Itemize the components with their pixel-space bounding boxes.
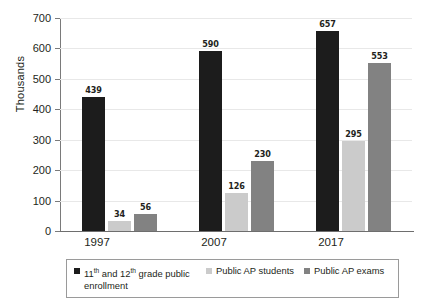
bar-value-2017-ap-exams: 553	[360, 51, 400, 61]
legend-swatch-icon-ap-students	[206, 268, 212, 274]
y-axis-title: Thousands	[14, 24, 26, 144]
y-tick-label: 100	[33, 195, 51, 207]
tick-mark	[55, 231, 60, 232]
bar-2017-ap-exams[interactable]	[368, 63, 391, 231]
tick-mark	[55, 109, 60, 110]
y-tick-label: 200	[33, 164, 51, 176]
x-tick-label-2017: 2017	[286, 236, 376, 248]
legend-item-ap-students[interactable]: Public AP students	[206, 265, 294, 277]
tick-mark	[55, 201, 60, 202]
y-tick-label: 700	[33, 12, 51, 24]
tick-mark	[55, 48, 60, 49]
tick-mark	[55, 79, 60, 80]
y-tick-label: 500	[33, 73, 51, 85]
bar-chart: Thousands 700 600 500 400 300	[0, 0, 424, 304]
bar-1997-ap-exams[interactable]	[134, 214, 157, 231]
bar-2007-ap-exams[interactable]	[251, 161, 274, 231]
tick-mark	[55, 140, 60, 141]
legend-label-ap-students: Public AP students	[216, 265, 294, 277]
legend-item-ap-exams[interactable]: Public AP exams	[304, 265, 384, 277]
plot-area: 700 600 500 400 300 200	[60, 18, 412, 231]
x-axis-line	[60, 231, 414, 232]
x-tick-label-2007: 2007	[169, 236, 259, 248]
bar-value-1997-ap-exams: 56	[126, 202, 166, 212]
y-tick-label: 300	[33, 134, 51, 146]
legend-label-enrollment: 11th and 12th grade public enrollment	[84, 265, 196, 292]
y-tick-label: 600	[33, 42, 51, 54]
tick-mark	[55, 18, 60, 19]
bar-value-2007-enrollment: 590	[191, 39, 231, 49]
bar-group-2007: 590 126 230	[189, 18, 289, 231]
y-tick-label: 400	[33, 103, 51, 115]
bar-group-1997: 439 34 56	[72, 18, 172, 231]
legend-swatch-icon-enrollment	[74, 268, 80, 274]
chart-legend: 11th and 12th grade public enrollment Pu…	[66, 259, 399, 298]
bar-value-1997-enrollment: 439	[74, 85, 114, 95]
legend-item-enrollment[interactable]: 11th and 12th grade public enrollment	[74, 265, 196, 292]
bar-2017-ap-students[interactable]	[342, 141, 365, 231]
bar-group-2017: 657 295 553	[306, 18, 406, 231]
legend-label-ap-exams: Public AP exams	[314, 265, 384, 277]
y-tick-label: 0	[45, 225, 51, 237]
bar-value-2007-ap-exams: 230	[243, 149, 283, 159]
bar-value-2017-enrollment: 657	[308, 19, 348, 29]
bar-2007-enrollment[interactable]	[199, 51, 222, 231]
x-tick-label-1997: 1997	[52, 236, 142, 248]
tick-mark	[55, 170, 60, 171]
bar-1997-ap-students[interactable]	[108, 221, 131, 231]
bar-2007-ap-students[interactable]	[225, 193, 248, 231]
legend-swatch-icon-ap-exams	[304, 268, 310, 274]
